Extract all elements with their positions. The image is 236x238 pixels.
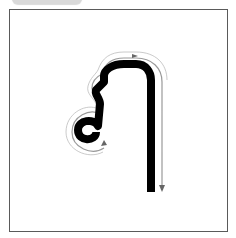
arrow-down-icon [159,185,165,192]
practice-stage [0,0,236,238]
loop-hole [83,125,93,135]
letter-glyph-icon [0,0,236,238]
arrow-loop-icon [101,140,107,146]
